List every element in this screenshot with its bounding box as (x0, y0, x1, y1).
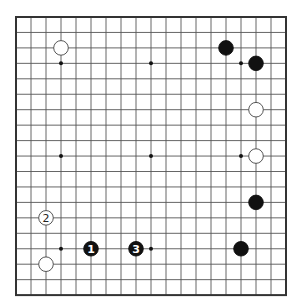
go-board: 213 (0, 0, 301, 308)
black-stone[interactable] (249, 56, 264, 71)
white-stone[interactable] (249, 102, 264, 117)
star-point (59, 61, 63, 65)
white-stone[interactable] (39, 257, 54, 272)
star-point (59, 247, 63, 251)
star-point (149, 247, 153, 251)
stone-move-number: 2 (43, 212, 50, 225)
white-stone[interactable] (54, 41, 69, 56)
star-point (239, 154, 243, 158)
black-stone[interactable] (249, 195, 264, 210)
white-stone[interactable] (249, 149, 264, 164)
black-stone[interactable] (234, 241, 249, 256)
star-point (59, 154, 63, 158)
stone-move-number: 3 (132, 243, 140, 256)
star-point (239, 61, 243, 65)
stone-move-number: 1 (87, 243, 95, 256)
black-stone[interactable] (219, 41, 234, 56)
star-point (149, 61, 153, 65)
star-point (149, 154, 153, 158)
